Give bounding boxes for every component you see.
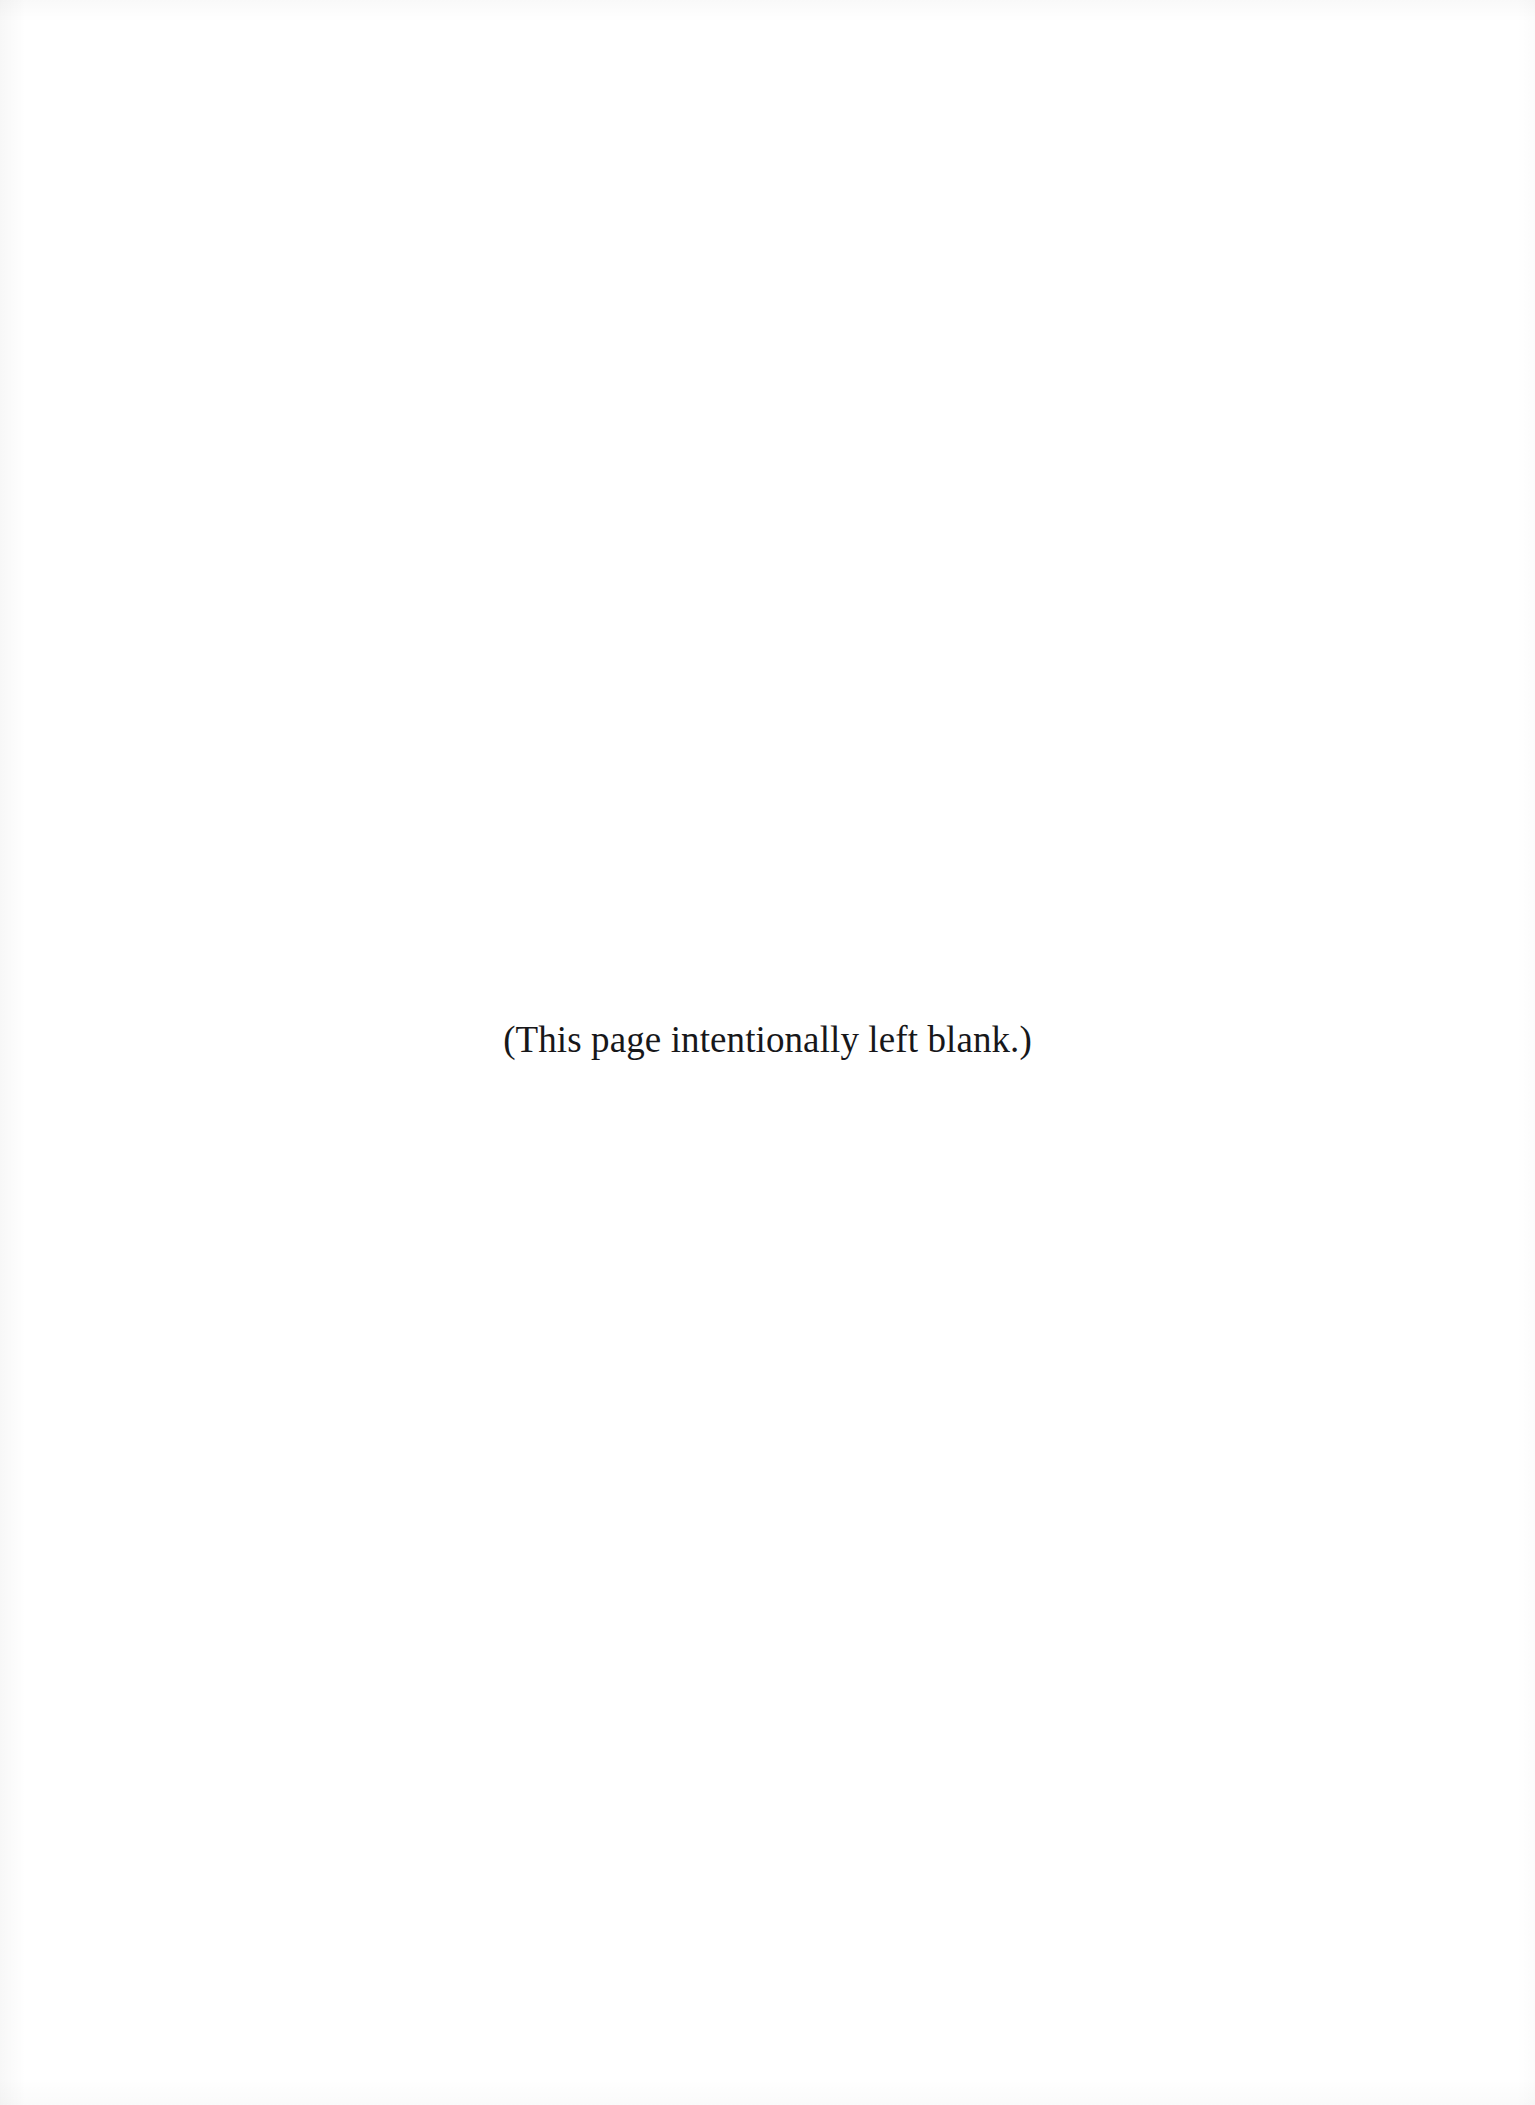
scanned-page: (This page intentionally left blank.) (0, 0, 1535, 2105)
intentionally-blank-notice: (This page intentionally left blank.) (0, 1017, 1535, 1063)
page-content-area: (This page intentionally left blank.) (0, 0, 1535, 2105)
